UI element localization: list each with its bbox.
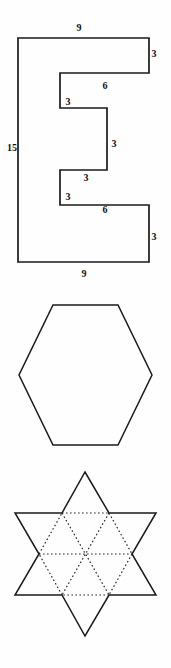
figure-e-shape: 9 3 6 3 15 3 3 3 6 3 9 [0,0,171,290]
e-shape-outline [18,38,149,262]
bottom-width-label: 9 [82,268,87,279]
left-height-label: 15 [7,142,17,153]
star-outline [15,472,156,636]
middle-notch-width-label: 3 [84,172,89,183]
star-svg [0,460,171,668]
lower-inner-width-label: 6 [103,204,108,215]
dotted-segment [109,513,132,554]
hexagon-svg [0,290,171,460]
figure-star [0,460,171,668]
upper-inner-width-label: 6 [103,80,108,91]
e-shape-svg: 9 3 6 3 15 3 3 3 6 3 9 [0,0,171,290]
middle-notch-height-label: 3 [112,138,117,149]
dotted-segment [39,513,62,554]
dotted-segment [39,554,62,595]
bottom-right-height-label: 3 [152,231,157,242]
dotted-segment [109,554,132,595]
top-width-label: 9 [77,22,82,33]
figure-hexagon [0,290,171,460]
star-interior-dotted-lines [39,513,132,595]
hexagon-outline [19,305,152,445]
top-right-height-label: 3 [152,48,157,59]
worksheet-sheet: 9 3 6 3 15 3 3 3 6 3 9 [0,0,171,668]
upper-inner-height-label: 3 [66,96,71,107]
lower-inner-height-label: 3 [66,191,71,202]
